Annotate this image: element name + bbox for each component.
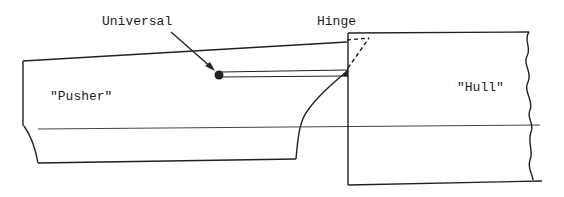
universal-joint-icon [215, 71, 224, 80]
connecting-rod [220, 70, 346, 77]
universal-label: Universal [102, 15, 172, 28]
hinge-swing-dashed [347, 38, 369, 68]
hinge-point-icon [343, 67, 348, 77]
pusher-label: "Pusher" [50, 90, 112, 103]
pusher-hull-hinge-diagram: Universal Hinge "Pusher" "Hull" [0, 0, 564, 197]
waterline [38, 125, 540, 129]
hull-outline [348, 32, 542, 185]
hinge-label: Hinge [317, 15, 356, 28]
hull-label: "Hull" [457, 81, 504, 94]
